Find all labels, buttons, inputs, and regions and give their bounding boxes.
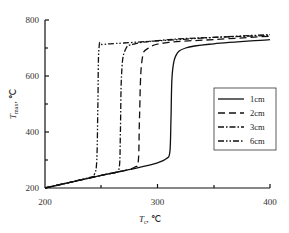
legend-label-1cm: 1cm xyxy=(250,94,265,104)
x-tick-label: 400 xyxy=(263,197,277,207)
x-axis-label: Tc, ℃ xyxy=(139,214,161,225)
y-tick-label: 800 xyxy=(26,15,40,25)
legend-label-2cm: 2cm xyxy=(250,108,265,118)
x-tick-label: 200 xyxy=(38,197,52,207)
y-tick-label: 600 xyxy=(26,71,40,81)
legend-label-6cm: 6cm xyxy=(250,136,265,146)
chart-figure: 800 600 400 200 200 300 400 Tc, ℃ Tmax, … xyxy=(0,0,289,233)
x-tick-labels: 200 300 400 xyxy=(38,197,277,207)
legend: 1cm 2cm 3cm 6cm xyxy=(214,88,276,150)
legend-label-3cm: 3cm xyxy=(250,122,265,132)
y-axis-label: Tmax, ℃ xyxy=(8,89,19,119)
y-tick-labels: 800 600 400 200 xyxy=(26,15,40,193)
y-tick-label: 400 xyxy=(26,127,40,137)
y-tick-label: 200 xyxy=(26,183,40,193)
x-tick-label: 300 xyxy=(151,197,165,207)
